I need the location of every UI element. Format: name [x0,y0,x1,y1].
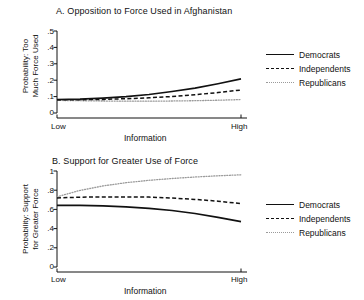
legend-label-republicans: Republicans [299,228,346,238]
panel-b: B. Support for Greater Use of Force Prob… [0,150,364,300]
legend-line-dotted-icon [266,78,294,88]
legend-line-dashed-icon [266,64,294,74]
legend-item-independents: Independents [266,62,351,76]
legend-line-dotted-icon [266,228,294,238]
panel-a: A. Opposition to Force Used in Afghanist… [0,0,364,150]
panel-b-legend: Democrats Independents Republicans [266,198,351,240]
panel-b-series-democrats [57,205,241,221]
panel-a-series-democrats [57,79,241,100]
legend-item-republicans: Republicans [266,76,351,90]
legend-line-dashed-icon [266,214,294,224]
legend-line-solid-icon [266,50,294,60]
legend-label-independents: Independents [299,214,351,224]
legend-item-republicans: Republicans [266,226,351,240]
legend-item-democrats: Democrats [266,48,351,62]
panel-a-legend: Democrats Independents Republicans [266,48,351,90]
legend-label-democrats: Democrats [299,200,340,210]
legend-item-independents: Independents [266,212,351,226]
legend-line-solid-icon [266,200,294,210]
panel-b-series-independents [57,197,241,204]
legend-label-republicans: Republicans [299,78,346,88]
panel-b-series-republicans [57,175,241,197]
legend-label-democrats: Democrats [299,50,340,60]
legend-label-independents: Independents [299,64,351,74]
legend-item-democrats: Democrats [266,198,351,212]
